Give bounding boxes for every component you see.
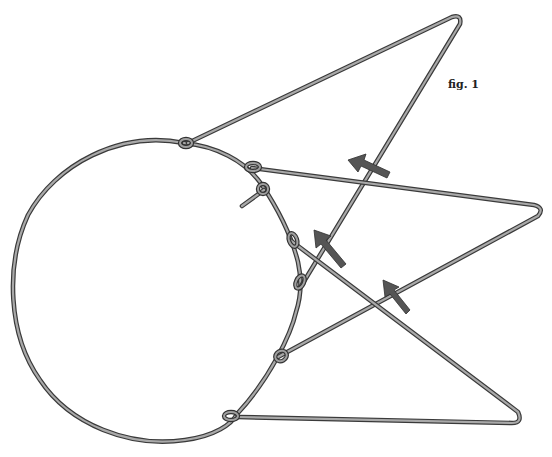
right-triangle-wire [252, 168, 541, 357]
bottom-triangle-wire [238, 240, 520, 423]
hook-knot-bottom [224, 412, 238, 420]
figure-label: fig. 1 [448, 78, 479, 91]
wire-frame-diagram [0, 0, 552, 457]
diagram-stage: fig. 1 [0, 0, 552, 457]
